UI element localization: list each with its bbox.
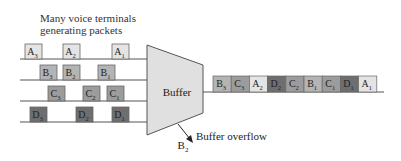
packet-D1: D1 (112, 107, 129, 122)
queued-packet-B1: B1 (304, 76, 322, 92)
buffer-label: Buffer (163, 86, 192, 98)
packet-B3: B3 (40, 65, 57, 80)
packet-A1: A1 (112, 44, 129, 59)
queued-packet-B3: B3 (213, 76, 231, 92)
dropped-packet: B2 (178, 139, 189, 154)
queued-packet-A2: A2 (249, 76, 267, 92)
queued-packet-C3: C3 (231, 76, 249, 92)
packet-A3: A3 (25, 44, 42, 59)
queued-packet-C1: C1 (322, 76, 340, 92)
packet-C3: C3 (48, 86, 65, 101)
packet-label: B2 (178, 139, 189, 154)
packet-multiplexing-diagram: A3A2A1B3B2B1C3C2C1D3D2D1BufferB3C3A2D2C2… (0, 0, 401, 161)
packet-D3: D3 (30, 107, 47, 122)
queued-packet-D1: D1 (340, 76, 358, 92)
queued-packet-D2: D2 (268, 76, 286, 92)
packet-C2: C2 (83, 86, 100, 101)
packet-B2: B2 (63, 65, 80, 80)
overflow-arrow (178, 124, 190, 139)
packet-A2: A2 (63, 44, 80, 59)
queued-packet-C2: C2 (286, 76, 304, 92)
packet-B1: B1 (98, 65, 115, 80)
overflow-arrowhead-icon (186, 135, 193, 143)
queued-packet-A1: A1 (359, 76, 377, 92)
overflow-label: Buffer overflow (196, 130, 267, 142)
packet-C1: C1 (107, 86, 124, 101)
packet-D2: D2 (76, 107, 93, 122)
